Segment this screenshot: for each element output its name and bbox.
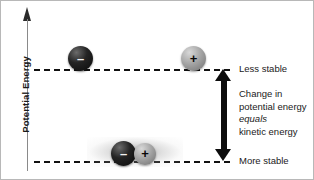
energy-level-line-upper bbox=[34, 69, 230, 71]
annotation-line-1: Change in bbox=[239, 88, 307, 101]
plus-sign-icon: + bbox=[190, 52, 198, 65]
negative-ion-upper: – bbox=[68, 46, 93, 71]
plus-sign-icon: + bbox=[141, 147, 149, 160]
minus-sign-icon: – bbox=[77, 52, 84, 65]
positive-ion-upper: + bbox=[181, 46, 206, 71]
positive-ion-lower: + bbox=[134, 143, 156, 165]
arrow-shaft bbox=[221, 80, 227, 150]
y-axis-label: Potential Energy bbox=[20, 40, 31, 150]
energy-change-annotation: Change in potential energy equals kineti… bbox=[239, 88, 307, 138]
double-headed-vertical-arrow-icon bbox=[215, 69, 232, 161]
label-less-stable: Less stable bbox=[239, 63, 287, 74]
negative-ion-lower: – bbox=[111, 141, 136, 166]
potential-energy-diagram: Potential Energy – + – + Less stable Cha… bbox=[0, 0, 314, 180]
label-more-stable: More stable bbox=[239, 155, 289, 166]
minus-sign-icon: – bbox=[120, 147, 127, 160]
arrowhead-down-icon bbox=[215, 149, 231, 161]
annotation-line-3-equals: equals bbox=[239, 113, 307, 126]
annotation-line-2: potential energy bbox=[239, 101, 307, 114]
annotation-line-4: kinetic energy bbox=[239, 126, 307, 139]
